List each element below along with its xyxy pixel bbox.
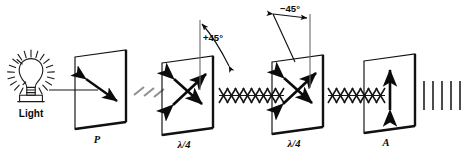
plate-label-quarter-wave-2: λ/4 bbox=[287, 138, 301, 149]
light-source-label: Light bbox=[19, 108, 44, 119]
angle-label-1: +45° bbox=[203, 32, 223, 43]
beam-linear-polarized-output bbox=[424, 81, 460, 110]
beam-linear-polarized-1 bbox=[134, 87, 164, 97]
optical-train-diagram: Light P λ/4 bbox=[0, 0, 465, 156]
angle-dimension-1 bbox=[202, 24, 229, 66]
plate-label-quarter-wave-1: λ/4 bbox=[177, 139, 191, 150]
polarization-arrow-quarter-wave-1 bbox=[173, 74, 206, 105]
polarization-arrow-quarter-wave-2 bbox=[283, 73, 316, 104]
plate-label-polarizer: P bbox=[94, 134, 101, 145]
plate-label-analyzer: A bbox=[381, 137, 389, 148]
angle-label-2: −45° bbox=[280, 3, 300, 14]
lightbulb-icon bbox=[8, 50, 55, 102]
plate-quarter-wave-1 bbox=[162, 56, 213, 135]
beam-circular-polarized-2 bbox=[328, 88, 385, 103]
beam-circular-polarized-1 bbox=[219, 88, 284, 103]
figure-canvas: Light P λ/4 bbox=[0, 0, 465, 156]
angle-dimension-2 bbox=[273, 14, 307, 62]
